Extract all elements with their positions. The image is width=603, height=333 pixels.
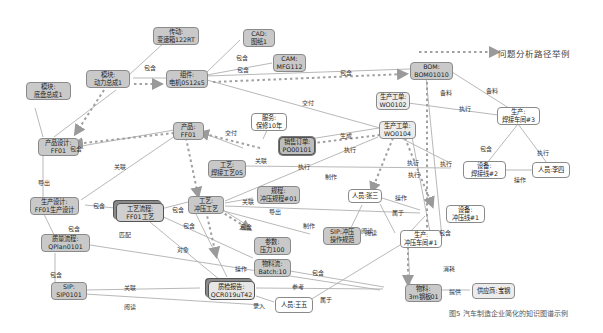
node-sales-order[interactable]: 销售订单:PO00101 — [279, 137, 315, 155]
node-transmission[interactable]: 传动:变速箱122RT — [153, 27, 199, 45]
edge-label: 包含 — [237, 65, 249, 74]
edge-label: 导出 — [269, 207, 281, 216]
edge-label: 交付 — [225, 128, 237, 137]
edge-label: 关联 — [255, 156, 267, 165]
edge-label: 包含 — [439, 228, 451, 237]
node-supplier[interactable]: 供应商:宝钢 — [472, 283, 515, 299]
node-wo0104[interactable]: 生产工单:WO0104 — [379, 121, 416, 139]
edge-label: 交付 — [302, 98, 314, 107]
edge-label: 阅读 — [124, 302, 136, 311]
node-person-zhangsan[interactable]: 人员:张三 — [348, 189, 382, 203]
edge-label: 属于 — [320, 295, 332, 304]
node-craft-weld[interactable]: 工艺:焊接工艺05 — [208, 160, 246, 178]
edge-label: 包含 — [236, 53, 248, 62]
node-person-wangwu[interactable]: 人员:王五 — [275, 297, 313, 313]
node-craft-stamp[interactable]: 工艺:冲压工艺 — [188, 196, 224, 214]
edge-label: 执行 — [407, 158, 419, 167]
edge-label: 包含 — [70, 144, 82, 153]
node-stamp-workshop1[interactable]: 生产:冲压车间#1 — [400, 230, 442, 248]
node-bom[interactable]: BOM:BOM01010 — [410, 62, 453, 80]
edge-label: 关联 — [114, 162, 126, 171]
node-quality-flow[interactable]: 质量流程:QPlan0101 — [41, 234, 90, 252]
node-module-power[interactable]: 模块:动力总成1 — [86, 70, 130, 88]
edge-label: 备料 — [440, 88, 452, 97]
edge-label: 阅读 — [365, 228, 377, 237]
node-person-lisi[interactable]: 人员:李四 — [532, 162, 570, 178]
edge-label: 包含 — [93, 201, 105, 210]
edge-label: 包含 — [312, 268, 324, 277]
edge-label: 生成 — [340, 131, 352, 140]
edge-label: 匹配 — [119, 230, 131, 239]
edge-label: 包含 — [240, 222, 252, 231]
edge-label: 制作 — [303, 221, 315, 230]
node-workshop3[interactable]: 生产:焊接车间#3 — [497, 107, 540, 125]
edge-label: 执行 — [440, 159, 452, 168]
edge-label: 操作 — [514, 175, 526, 184]
edge-label: 包含 — [480, 144, 492, 153]
node-material[interactable]: 物料:3m钢板01 — [405, 284, 442, 302]
edge-label: 执行 — [537, 148, 549, 157]
node-sip0101[interactable]: SIP:SIP0101 — [51, 282, 87, 300]
legend-label: 问题分析路径举例 — [498, 47, 570, 59]
node-spec[interactable]: 规程:冲压规程#01 — [257, 186, 300, 204]
edge-label: 包含 — [68, 224, 80, 233]
edge-label: 操作 — [395, 193, 407, 202]
node-param[interactable]: 参数:压力100 — [254, 237, 291, 255]
node-material-flow[interactable]: 物料流:Batch:10 — [254, 259, 291, 277]
edge-label: 备料 — [486, 86, 498, 95]
edge-label: 参考 — [292, 282, 304, 291]
edge-label: 属于 — [392, 208, 404, 217]
node-product[interactable]: 产品:FF01 — [173, 122, 204, 140]
node-cam[interactable]: CAM:MFG112 — [273, 54, 306, 72]
edge-label: 关联 — [242, 197, 254, 206]
edge-label: 包含 — [172, 205, 184, 214]
node-cad[interactable]: CAD:图纸1 — [243, 29, 275, 47]
edge-label: 操作 — [235, 264, 247, 273]
edge-label: 执行 — [298, 162, 310, 171]
edge-label: 录入 — [253, 301, 265, 310]
figure-caption: 图5 汽车制造企业简化的知识图谱示例 — [449, 308, 568, 318]
node-stamp-line1[interactable]: 设备:冲压线#1 — [446, 205, 485, 223]
edge-label: 执行 — [408, 170, 420, 179]
node-sip-stamp[interactable]: SIP:冲压操作规范 — [323, 227, 361, 245]
node-process-flow[interactable]: 工艺流程:FF01工艺 — [116, 203, 164, 222]
node-qc-report[interactable]: 质检报告:QCR019uT42 — [208, 281, 255, 300]
node-component[interactable]: 组件:电机0512s5 — [166, 70, 208, 88]
edge-label: 包含 — [144, 63, 156, 72]
node-wo0102[interactable]: 生产工单:WO0102 — [376, 92, 410, 110]
edge-label: 包含 — [183, 221, 195, 230]
edge-label: 提供 — [449, 287, 461, 296]
node-module-chassis[interactable]: 模块:底盘总成1 — [26, 82, 71, 100]
edge-label: 包含 — [340, 68, 352, 77]
edge-label: 执行 — [344, 145, 356, 154]
edge-label: 关联 — [124, 283, 136, 292]
edge-label: 导出 — [38, 178, 50, 187]
edge-label: 包含 — [50, 270, 62, 279]
edge-label: 制作 — [325, 172, 337, 181]
edge-label: 执行 — [459, 104, 471, 113]
node-prod-design[interactable]: 生产设计:FF01生产设计 — [30, 197, 79, 215]
edge-label: 对象 — [177, 245, 189, 254]
edge-label: 消耗 — [443, 264, 455, 273]
node-weld-line2[interactable]: 设备:焊接线#2 — [463, 161, 506, 179]
node-service[interactable]: 服务:保修10年 — [251, 113, 287, 131]
